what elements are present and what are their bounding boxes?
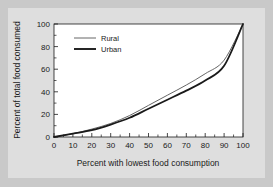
x-tick-label: 30 bbox=[106, 141, 115, 150]
legend-label-urban: Urban bbox=[101, 45, 121, 54]
legend-label-rural: Rural bbox=[101, 34, 119, 43]
x-tick-label: 90 bbox=[220, 141, 229, 150]
lorenz-curve-chart: 020406080100 0102030405060708090100 Rura… bbox=[8, 8, 265, 178]
y-tick-label: 40 bbox=[41, 88, 50, 97]
y-tick-label: 0 bbox=[46, 133, 51, 142]
y-tick-label: 100 bbox=[37, 20, 51, 29]
y-axis-title: Percent of total food consumed bbox=[12, 21, 22, 139]
x-tick-label: 50 bbox=[144, 141, 153, 150]
x-tick-label: 60 bbox=[163, 141, 172, 150]
x-tick-label: 40 bbox=[125, 141, 134, 150]
y-tick-label: 60 bbox=[41, 65, 50, 74]
x-tick-label: 70 bbox=[182, 141, 191, 150]
x-tick-label: 100 bbox=[236, 141, 250, 150]
x-tick-label: 0 bbox=[52, 141, 57, 150]
x-tick-label: 80 bbox=[201, 141, 210, 150]
x-axis-title: Percent with lowest food consumption bbox=[77, 158, 220, 168]
figure-panel: 020406080100 0102030405060708090100 Rura… bbox=[8, 8, 265, 178]
plot-frame bbox=[54, 24, 243, 137]
x-tick-label: 10 bbox=[68, 141, 77, 150]
y-tick-label: 80 bbox=[41, 43, 50, 52]
y-tick-label: 20 bbox=[41, 110, 50, 119]
x-tick-label: 20 bbox=[87, 141, 96, 150]
chart-svg: 020406080100 0102030405060708090100 Rura… bbox=[8, 8, 265, 178]
